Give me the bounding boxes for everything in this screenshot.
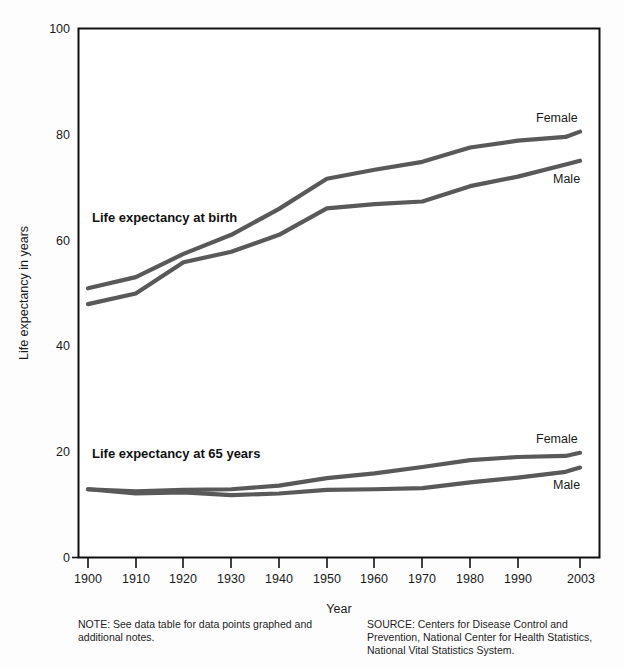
life-expectancy-line-chart: 100 80 60 40 20 0 Life expectancy in yea… [0,0,624,669]
y-tick-20: 20 [56,445,70,459]
group-label-birth: Life expectancy at birth [92,210,237,225]
x-tick-1920: 1920 [169,572,197,586]
figure-container: 100 80 60 40 20 0 Life expectancy in yea… [0,0,624,669]
x-tick-1950: 1950 [313,572,341,586]
series-label-at65-male: Male [553,478,580,492]
x-tick-1960: 1960 [360,572,388,586]
series-label-birth-male: Male [553,172,580,186]
x-tick-2003: 2003 [567,572,595,586]
y-tick-40: 40 [56,339,70,353]
x-axis-ticks [88,558,580,569]
x-tick-1930: 1930 [217,572,245,586]
group-label-at65: Life expectancy at 65 years [92,446,260,461]
x-tick-1970: 1970 [408,572,436,586]
x-tick-1910: 1910 [122,572,150,586]
y-tick-60: 60 [56,234,70,248]
y-tick-80: 80 [56,128,70,142]
series-label-birth-female: Female [536,111,578,125]
x-tick-1980: 1980 [456,572,484,586]
y-tick-100: 100 [49,22,70,36]
x-tick-1990: 1990 [504,572,532,586]
x-tick-1940: 1940 [265,572,293,586]
series-label-at65-female: Female [536,432,578,446]
y-axis-title: Life expectancy in years [17,226,31,360]
x-tick-1900: 1900 [74,572,102,586]
y-tick-0: 0 [63,551,70,565]
x-axis-title: Year [326,602,351,616]
source-text: SOURCE: Centers for Disease Control and … [367,618,617,657]
note-text: NOTE: See data table for data points gra… [78,618,328,644]
